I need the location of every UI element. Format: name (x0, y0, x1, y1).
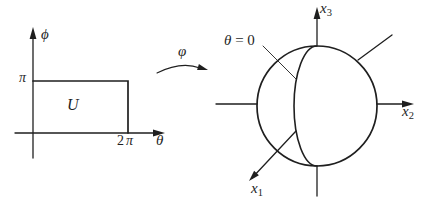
x1-label-subscript: 1 (258, 187, 263, 198)
region-outline (33, 81, 128, 133)
pi-tick-label: π (19, 71, 26, 85)
theta-axis-label: θ (156, 133, 163, 148)
x3-label-variable: x (320, 0, 327, 16)
figure-canvas (0, 0, 426, 205)
map-label: φ (178, 44, 186, 59)
parametrized-sphere-figure: ϕ π U 2π θ φ θ = 0 x3 x2 x1 (0, 0, 426, 205)
map-arrowhead-icon (197, 64, 208, 70)
x3-axis-label: x3 (320, 1, 332, 19)
x2-label-variable: x (402, 103, 409, 119)
phi-axis-label: ϕ (41, 27, 49, 42)
two-pi-tick-label: 2π (117, 134, 133, 148)
two-pi-symbol: π (126, 133, 133, 148)
x1-label-variable: x (251, 180, 258, 196)
meridian-label: θ = 0 (224, 33, 255, 48)
phi-axis-arrowhead-icon (30, 27, 37, 39)
x2-axis-label: x2 (402, 104, 414, 122)
meridian-curve (294, 46, 317, 166)
region-label: U (67, 97, 79, 113)
x3-label-subscript: 3 (327, 7, 332, 18)
x1-axis-label: x1 (251, 181, 263, 199)
sphere-outline (257, 46, 377, 166)
map-arrow-curve (157, 65, 200, 73)
x2-label-subscript: 2 (409, 110, 414, 121)
meridian-pointer-line (263, 46, 296, 79)
two-pi-coefficient: 2 (117, 133, 124, 148)
x1-axis-back-line (358, 35, 392, 60)
meridian-label-value: = 0 (231, 32, 254, 48)
x1-axis-front-line (252, 131, 296, 178)
